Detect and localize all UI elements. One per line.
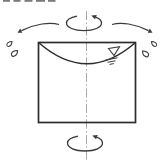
rotating-tank-diagram: [0, 0, 165, 164]
droplet-icon: [11, 49, 19, 58]
fling-arrow-right: [112, 23, 153, 32]
diagram-canvas: [0, 0, 165, 164]
droplets-right: [141, 40, 157, 58]
rotation-arrow-bottom: [68, 135, 103, 151]
cropped-text-fragments: [3, 0, 56, 2]
droplet-icon: [150, 40, 157, 47]
droplets-left: [6, 40, 19, 57]
droplet-icon: [6, 40, 13, 47]
fling-arrow-left: [18, 23, 60, 32]
free-surface-triangle-icon: [109, 47, 120, 56]
rotation-arrow-top: [67, 15, 102, 31]
droplet-icon: [141, 49, 149, 58]
